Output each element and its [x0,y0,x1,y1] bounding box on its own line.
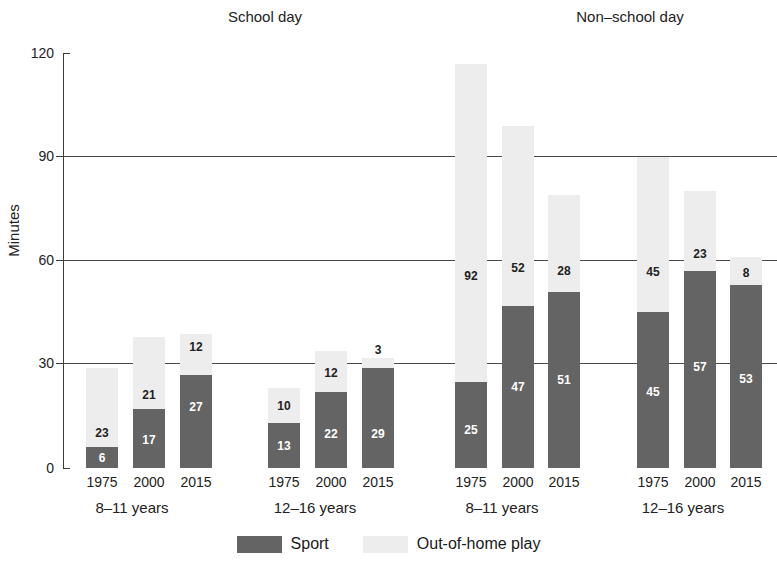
x-tick-label-school-12to16-2015: 2015 [350,474,406,490]
x-tick-label-nonschool-8to11-2015: 2015 [536,474,592,490]
bar-value-label: 45 [637,386,669,398]
bar-value-label: 53 [730,373,762,385]
y-tick-label-30: 30 [20,356,54,370]
bar-stack-nonschool-8to11-1975[interactable]: 92 25 [455,64,487,468]
bar-segment-sport[interactable]: 57 [684,271,716,468]
bar-segment-play[interactable]: 10 [268,388,300,423]
bar-stack-nonschool-8to11-2000[interactable]: 52 47 [502,126,534,468]
y-tick-label-90: 90 [20,149,54,163]
gridline-90 [63,156,777,157]
bar-segment-play[interactable]: 23 [684,191,716,271]
legend-item-sport[interactable]: Sport [237,535,329,553]
y-tick-label-120: 120 [20,46,54,60]
gridline-30 [63,363,777,364]
legend-swatch-sport-icon [237,536,282,553]
bar-segment-play[interactable]: 23 [86,368,118,447]
bar-value-label: 57 [684,361,716,373]
bar-segment-sport[interactable]: 27 [180,375,212,468]
bar-value-label: 12 [180,341,212,353]
bar-value-label: 92 [455,270,487,282]
legend-swatch-play-icon [363,536,408,553]
bar-value-label: 45 [637,266,669,278]
bar-stack-school-12to16-1975[interactable]: 10 13 [268,388,300,468]
bar-value-label: 3 [362,344,394,356]
bar-stack-school-8to11-1975[interactable]: 23 6 [86,368,118,468]
bar-stack-school-8to11-2015[interactable]: 12 27 [180,334,212,468]
group-label-nonschool-12to16: 12–16 years [593,499,773,516]
bar-value-label: 6 [86,452,118,464]
bar-stack-school-12to16-2000[interactable]: 12 22 [315,351,347,468]
panel-title-school-day: School day [135,8,395,25]
bar-segment-play[interactable]: 92 [455,64,487,382]
bar-segment-sport[interactable]: 47 [502,306,534,468]
bar-value-label: 17 [133,434,165,446]
bar-value-label: 23 [684,248,716,260]
x-tick-label-nonschool-12to16-2015: 2015 [718,474,774,490]
bar-value-label: 10 [268,400,300,412]
stacked-bar-chart: School day Non–school day Minutes 120 90… [0,0,777,563]
y-tick-label-0: 0 [20,461,54,475]
bar-value-label: 21 [133,389,165,401]
bar-stack-nonschool-12to16-2015[interactable]: 8 53 [730,257,762,468]
legend-item-out-of-home-play[interactable]: Out-of-home play [363,535,541,553]
gridline-60 [63,260,777,261]
bar-segment-play[interactable]: 28 [548,195,580,292]
bar-segment-sport[interactable]: 25 [455,382,487,468]
bar-segment-play[interactable]: 8 [730,257,762,285]
x-tick-label-school-8to11-2015: 2015 [168,474,224,490]
bar-segment-sport[interactable]: 51 [548,292,580,468]
y-axis-top-cap [63,53,70,54]
bar-stack-nonschool-12to16-2000[interactable]: 23 57 [684,191,716,468]
bar-segment-sport[interactable]: 22 [315,392,347,468]
bar-value-label: 13 [268,440,300,452]
bar-segment-play[interactable]: 45 [637,157,669,312]
bar-value-label: 23 [86,427,118,439]
bar-segment-play[interactable]: 52 [502,126,534,306]
group-label-nonschool-8to11: 8–11 years [412,499,592,516]
bar-segment-play[interactable]: 21 [133,337,165,409]
bar-value-label: 8 [730,267,762,279]
bar-segment-sport[interactable]: 13 [268,423,300,468]
y-tick-label-60: 60 [20,253,54,267]
group-label-school-8to11: 8–11 years [42,499,222,516]
bar-value-label: 51 [548,374,580,386]
bar-value-label: 22 [315,428,347,440]
bar-segment-sport[interactable]: 29 [362,368,394,468]
bar-value-label: 28 [548,265,580,277]
bar-segment-play[interactable]: 3 [362,358,394,368]
bar-value-label: 52 [502,262,534,274]
y-axis-tick-labels: 120 90 60 30 0 [14,0,54,563]
bar-segment-sport[interactable]: 17 [133,409,165,468]
group-label-school-12to16: 12–16 years [225,499,405,516]
bar-segment-sport[interactable]: 45 [637,312,669,468]
bar-segment-play[interactable]: 12 [315,351,347,392]
bar-stack-school-8to11-2000[interactable]: 21 17 [133,337,165,468]
panel-title-non-school-day: Non–school day [500,8,760,25]
bar-stack-nonschool-8to11-2015[interactable]: 28 51 [548,195,580,468]
bar-segment-play[interactable]: 12 [180,334,212,375]
legend-label-out-of-home-play: Out-of-home play [417,535,541,553]
bar-value-label: 25 [455,424,487,436]
legend-label-sport: Sport [291,535,329,553]
bar-stack-nonschool-12to16-1975[interactable]: 45 45 [637,157,669,468]
bar-value-label: 29 [362,428,394,440]
y-axis-bottom-cap [63,468,70,469]
bar-value-label: 27 [180,401,212,413]
bar-value-label: 47 [502,381,534,393]
bar-value-label: 12 [315,367,347,379]
bar-segment-sport[interactable]: 6 [86,447,118,468]
bar-stack-school-12to16-2015[interactable]: 3 29 [362,358,394,468]
legend: Sport Out-of-home play [0,531,777,557]
bar-segment-sport[interactable]: 53 [730,285,762,468]
